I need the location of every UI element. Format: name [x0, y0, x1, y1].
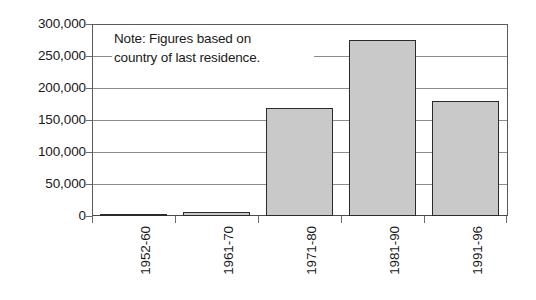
y-tick-label-250000: 250,000	[0, 49, 86, 63]
figures-note-line-2: country of last residence.	[114, 48, 310, 67]
x-tick-mark-3	[341, 216, 342, 223]
x-tick-label-1971-80: 1971-80	[305, 226, 319, 300]
x-tick-mark-1	[175, 216, 176, 223]
x-axis-labels: 1952-60 1961-70 1971-80 1981-90 1991-96	[92, 226, 508, 300]
y-tick-label-200000: 200,000	[0, 81, 86, 95]
y-axis: 300,000 250,000 200,000 150,000 100,000 …	[0, 0, 86, 300]
y-tick-label-150000: 150,000	[0, 113, 86, 127]
x-tick-mark-4	[424, 216, 425, 223]
x-tick-mark-0	[92, 216, 93, 223]
bar-1991-96[interactable]	[432, 101, 499, 216]
y-tick-label-50000: 50,000	[0, 177, 86, 191]
y-tick-label-100000: 100,000	[0, 145, 86, 159]
x-tick-mark-2	[258, 216, 259, 223]
figures-note: Note: Figures based on country of last r…	[112, 28, 314, 68]
x-axis	[92, 216, 508, 224]
bar-chart: 300,000 250,000 200,000 150,000 100,000 …	[0, 0, 536, 300]
x-tick-label-1981-90: 1981-90	[388, 226, 402, 300]
y-tick-label-300000: 300,000	[0, 17, 86, 31]
y-tick-label-0: 0	[0, 209, 86, 223]
x-tick-mark-5	[506, 216, 507, 223]
x-tick-label-1961-70: 1961-70	[222, 226, 236, 300]
x-tick-label-1991-96: 1991-96	[471, 226, 485, 300]
bar-1971-80[interactable]	[266, 108, 333, 216]
figures-note-line-1: Note: Figures based on	[114, 29, 310, 48]
bar-1981-90[interactable]	[349, 40, 416, 216]
x-tick-label-1952-60: 1952-60	[139, 226, 153, 300]
